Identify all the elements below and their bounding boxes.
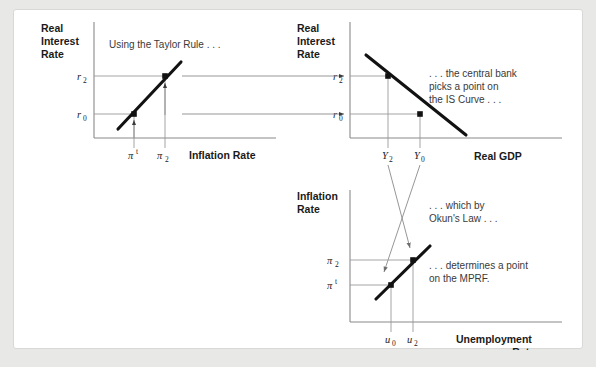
- taylor-y-axis-title-line1: Real: [41, 22, 63, 34]
- mprf-tick-u2-sub: 2: [414, 339, 418, 348]
- is-point-low: [417, 111, 423, 117]
- is-tick-r0-base: r: [333, 109, 338, 120]
- is-x-tick-label-y0: Y 0: [414, 150, 425, 164]
- taylor-tick-pi2-base: π: [157, 150, 163, 161]
- mprf-annotation-mprf-line1: . . . determines a point: [429, 260, 528, 271]
- mprf-point-high: [410, 257, 416, 263]
- taylor-point-low: [131, 111, 137, 117]
- mprf-x-axis-title-line1: Unemployment: [456, 333, 532, 345]
- taylor-x-axis-title: Inflation Rate: [189, 149, 256, 161]
- taylor-y-axis-title-line3: Rate: [41, 48, 64, 60]
- mprf-x-tick-label-u2: u 2: [407, 334, 418, 348]
- is-y-tick-label-r0: r 0: [333, 109, 343, 123]
- mprf-y-axis-title-line2: Rate: [297, 203, 320, 215]
- is-tick-r2-base: r: [333, 71, 338, 82]
- taylor-annotation: Using the Taylor Rule . . .: [109, 39, 221, 50]
- mprf-tick-pit-base: π: [327, 280, 333, 291]
- is-tick-y0-base: Y: [414, 150, 421, 161]
- figure-card: Real Interest Rate Using the Taylor Rule…: [13, 9, 583, 349]
- is-y-tick-label-r2: r 2: [333, 71, 343, 85]
- taylor-tick-pit-sup: t: [136, 147, 139, 156]
- is-x-axis-title: Real GDP: [474, 150, 522, 162]
- mprf-tick-pi2-sub: 2: [335, 260, 339, 269]
- flow-arrow-y2-to-u2: [388, 165, 410, 248]
- is-y-axis-title-line3: Rate: [297, 48, 320, 60]
- mprf-x-axis-title-line2: Rate: [512, 346, 535, 350]
- taylor-x-tick-label-pit: π t: [128, 147, 139, 161]
- is-annotation-line2: picks a point on: [429, 81, 499, 92]
- mprf-x-tick-label-u0: u 0: [385, 334, 396, 348]
- mprf-tick-u2-base: u: [407, 334, 412, 345]
- flow-arrows-is-to-mprf: [384, 165, 420, 272]
- flow-arrow-y0-to-u0: [384, 165, 420, 272]
- mprf-tick-pit-sup: t: [335, 277, 338, 286]
- is-tick-y2-base: Y: [382, 150, 389, 161]
- taylor-y-tick-label-r2: r 2: [77, 71, 87, 85]
- taylor-tick-r0-base: r: [77, 109, 82, 120]
- taylor-tick-pi2-sub: 2: [165, 155, 169, 164]
- is-tick-r0-sub: 0: [339, 114, 343, 123]
- mprf-tick-pi2-base: π: [327, 255, 333, 266]
- mprf-point-low: [388, 282, 394, 288]
- is-x-tick-label-y2: Y 2: [382, 150, 393, 164]
- is-y-axis-title-line1: Real: [297, 22, 319, 34]
- is-y-axis-title-line2: Interest: [297, 35, 335, 47]
- mprf-annotation-mprf-line2: on the MPRF.: [429, 273, 490, 284]
- taylor-point-high: [162, 73, 168, 79]
- mprf-tick-u0-base: u: [385, 334, 390, 345]
- is-annotation-line3: the IS Curve . . .: [429, 94, 501, 105]
- taylor-tick-r2-sub: 2: [83, 76, 87, 85]
- mprf-curve-line: [376, 246, 430, 299]
- mprf-y-tick-label-pi2: π 2: [327, 255, 339, 269]
- panel-mprf: Inflation Rate . . . which by Okun's Law…: [297, 190, 562, 350]
- taylor-rule-curve: [118, 62, 181, 129]
- taylor-tick-pit-base: π: [128, 150, 134, 161]
- taylor-y-tick-label-r0: r 0: [77, 109, 87, 123]
- economics-flow-diagram: Real Interest Rate Using the Taylor Rule…: [14, 10, 584, 350]
- is-point-high: [385, 73, 391, 79]
- mprf-y-tick-label-pit: π t: [327, 277, 338, 291]
- mprf-annotation-okun-line2: Okun's Law . . .: [429, 213, 498, 224]
- mprf-tick-u0-sub: 0: [392, 339, 396, 348]
- mprf-y-axis-title-line1: Inflation: [297, 190, 338, 202]
- taylor-x-tick-label-pi2: π 2: [157, 150, 169, 164]
- taylor-y-axis-title-line2: Interest: [41, 35, 79, 47]
- taylor-tick-r0-sub: 0: [83, 114, 87, 123]
- taylor-tick-r2-base: r: [77, 71, 82, 82]
- is-tick-r2-sub: 2: [339, 76, 343, 85]
- flow-arrows-taylor-to-is: [182, 76, 344, 114]
- panel-is-curve: Real Interest Rate . . . the central ban…: [297, 22, 562, 164]
- mprf-annotation-okun-line1: . . . which by: [429, 200, 485, 211]
- panel-taylor-rule: Real Interest Rate Using the Taylor Rule…: [41, 22, 276, 164]
- is-annotation-line1: . . . the central bank: [429, 68, 518, 79]
- is-tick-y0-sub: 0: [421, 155, 425, 164]
- is-tick-y2-sub: 2: [389, 155, 393, 164]
